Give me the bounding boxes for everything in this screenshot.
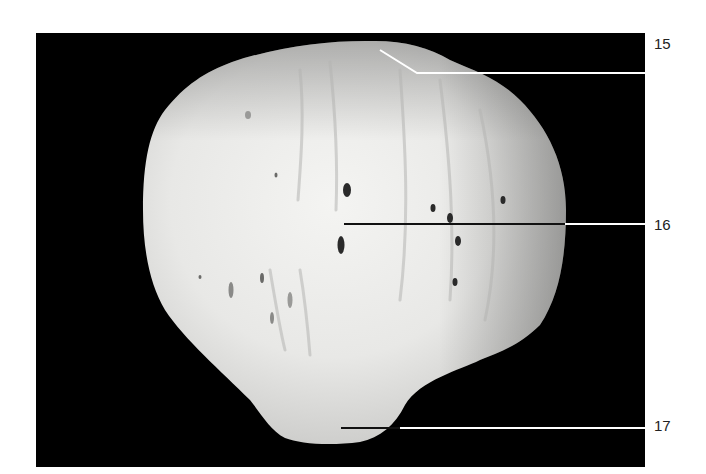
label-15: 15 [654, 36, 671, 51]
photo-panel [0, 0, 706, 474]
anatomy-figure: 15 16 17 [0, 0, 706, 474]
bone-specimen [143, 41, 566, 444]
label-17: 17 [654, 418, 671, 433]
label-16: 16 [654, 217, 671, 232]
